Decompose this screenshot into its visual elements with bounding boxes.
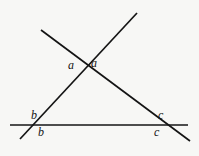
angle-label-b-top: b [31,109,37,121]
angle-label-c-bottom: c [154,126,159,138]
angle-label-a-left: a [68,59,74,71]
figure-background [0,0,199,156]
geometry-figure: a a b b c c [0,0,199,156]
angle-label-a-right: a [91,57,97,69]
figure-canvas [0,0,199,156]
angle-label-c-top: c [158,109,163,121]
angle-label-b-bottom: b [38,126,44,138]
